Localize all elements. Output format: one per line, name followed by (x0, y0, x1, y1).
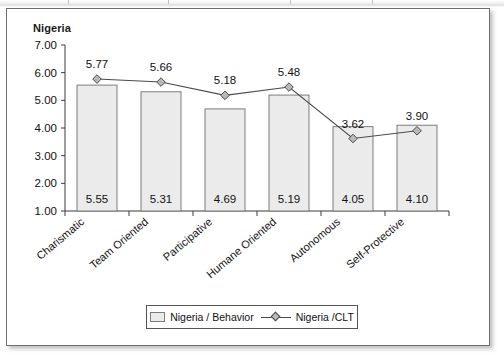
chart-legend: Nigeria / Behavior Nigeria /CLT (146, 305, 358, 329)
bar-value-label: 4.69 (214, 193, 236, 205)
line-diamond-icon (261, 312, 291, 322)
line-value-label: 5.18 (214, 74, 236, 86)
y-tick-label: 5.00 (35, 94, 57, 106)
y-tick-label: 6.00 (35, 67, 57, 79)
chart-plot-area: 1.002.003.004.005.006.007.00 5.555.314.6… (7, 9, 491, 347)
scan-artifact-strip (0, 0, 504, 7)
bar-value-label: 4.10 (406, 193, 428, 205)
line-marker-diamond (93, 75, 102, 84)
y-axis: 1.002.003.004.005.006.007.00 (35, 39, 65, 217)
x-tick-label: Team Oriented (87, 215, 150, 271)
bar-swatch-icon (150, 312, 165, 322)
artifact-tick (290, 0, 291, 4)
bar-value-label: 5.31 (150, 193, 172, 205)
x-tick-label: Autonomous (287, 215, 342, 264)
y-tick-label: 4.00 (35, 122, 57, 134)
artifact-tick (168, 0, 169, 4)
bar-value-label: 5.55 (86, 193, 108, 205)
x-tick-labels: CharismaticTeam OrientedParticipativeHum… (34, 215, 406, 280)
legend-entry-clt: Nigeria /CLT (261, 311, 354, 323)
line-value-label: 5.77 (86, 58, 108, 70)
figure-frame: Nigeria 1.002.003.004.005.006.007.00 5.5… (6, 8, 490, 346)
artifact-tick (372, 0, 373, 4)
line-value-label: 5.48 (278, 66, 300, 78)
line-value-label: 5.66 (150, 61, 172, 73)
chart-svg: 1.002.003.004.005.006.007.00 5.555.314.6… (7, 9, 491, 347)
artifact-tick (68, 0, 69, 4)
line-value-label: 3.62 (342, 118, 364, 130)
x-tick-label: Humane Oriented (204, 215, 278, 280)
x-tick-label: Participative (161, 215, 215, 263)
line-value-label: 3.90 (406, 110, 428, 122)
bar-series-nigeria-behavior: 5.555.314.695.194.054.10 (77, 85, 437, 211)
line-series-nigeria-clt: 5.775.665.185.483.623.90 (86, 58, 428, 143)
y-tick-label: 2.00 (35, 177, 57, 189)
x-axis (65, 211, 449, 216)
line-marker-diamond (157, 78, 166, 87)
legend-label-clt: Nigeria /CLT (296, 311, 354, 323)
bar-value-label: 4.05 (342, 193, 364, 205)
legend-entry-behavior: Nigeria / Behavior (150, 311, 253, 323)
bar-value-label: 5.19 (278, 193, 300, 205)
legend-label-behavior: Nigeria / Behavior (170, 311, 253, 323)
y-tick-label: 3.00 (35, 150, 57, 162)
x-tick-label: Charismatic (34, 215, 87, 262)
y-tick-label: 7.00 (35, 39, 57, 51)
line-marker-diamond (221, 91, 230, 100)
y-tick-label: 1.00 (35, 205, 57, 217)
x-tick-label: Self-Protective (344, 215, 407, 270)
